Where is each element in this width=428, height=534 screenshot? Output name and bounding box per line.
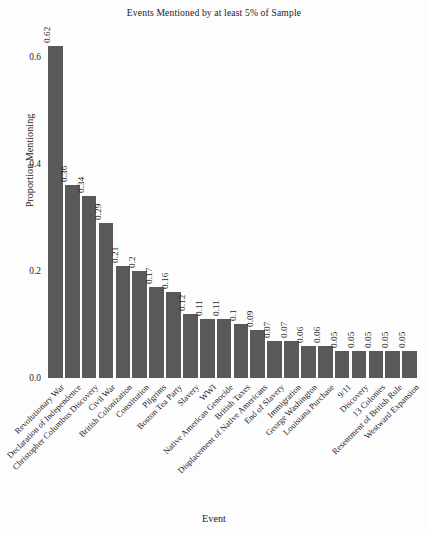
bar-value-label: 0.05 bbox=[396, 332, 406, 348]
bar-value-label: 0.21 bbox=[109, 246, 119, 262]
bar-slot: 0.05 bbox=[334, 30, 351, 378]
bar-value-label: 0.36 bbox=[59, 166, 69, 182]
y-axis-tick-label: 0.6 bbox=[29, 52, 41, 62]
bar-value-label: 0.09 bbox=[244, 311, 254, 327]
bar-slot: 0.36 bbox=[64, 30, 81, 378]
bar-value-label: 0.29 bbox=[93, 203, 103, 219]
bar-slot: 0.05 bbox=[384, 30, 401, 378]
bar[interactable] bbox=[200, 319, 215, 378]
bar-value-label: 0.11 bbox=[211, 300, 221, 316]
bar-value-label: 0.05 bbox=[362, 332, 372, 348]
bar-slot: 0.29 bbox=[98, 30, 115, 378]
bar-chart-figure: Events Mentioned by at least 5% of Sampl… bbox=[0, 0, 428, 534]
bar[interactable] bbox=[48, 46, 63, 378]
bar-value-label: 0.05 bbox=[329, 332, 339, 348]
bar-value-label: 0.07 bbox=[278, 321, 288, 337]
bar-value-label: 0.06 bbox=[312, 327, 322, 343]
bar[interactable] bbox=[284, 341, 299, 378]
bar[interactable] bbox=[116, 266, 131, 378]
bar[interactable] bbox=[65, 185, 80, 378]
bar-slot: 0.05 bbox=[351, 30, 368, 378]
bar[interactable] bbox=[301, 346, 316, 378]
bar-slot: 0.21 bbox=[114, 30, 131, 378]
bar-value-label: 0.34 bbox=[76, 177, 86, 193]
bar-value-label: 0.62 bbox=[42, 27, 52, 43]
bar-slot: 0.62 bbox=[47, 30, 64, 378]
y-axis-tick-label: 0.0 bbox=[29, 373, 41, 383]
bar-value-label: 0.05 bbox=[379, 332, 389, 348]
bar-slot: 0.05 bbox=[367, 30, 384, 378]
bar[interactable] bbox=[318, 346, 333, 378]
bar[interactable] bbox=[369, 351, 384, 378]
bar-value-label: 0.11 bbox=[194, 300, 204, 316]
bar-slot: 0.2 bbox=[131, 30, 148, 378]
bar-value-label: 0.05 bbox=[345, 332, 355, 348]
bar-value-label: 0.17 bbox=[143, 268, 153, 284]
bar-slot: 0.11 bbox=[216, 30, 233, 378]
bar[interactable] bbox=[217, 319, 232, 378]
bar-slot: 0.06 bbox=[317, 30, 334, 378]
bar-slot: 0.12 bbox=[182, 30, 199, 378]
bar-value-label: 0.1 bbox=[227, 310, 237, 322]
x-axis-title: Event bbox=[0, 513, 428, 524]
bar[interactable] bbox=[82, 196, 97, 378]
x-axis-tick-labels: Revolutionary WarDeclaration of Independ… bbox=[47, 380, 418, 520]
plot-area: 0.620.360.340.290.210.20.170.160.120.110… bbox=[47, 30, 418, 378]
bar-value-label: 0.07 bbox=[261, 321, 271, 337]
bar-slot: 0.16 bbox=[165, 30, 182, 378]
y-axis-tick-label: 0.2 bbox=[29, 266, 41, 276]
bar-value-label: 0.12 bbox=[177, 294, 187, 310]
bar-slot: 0.17 bbox=[148, 30, 165, 378]
bar-slot: 0.11 bbox=[199, 30, 216, 378]
bar[interactable] bbox=[234, 324, 249, 378]
bar[interactable] bbox=[335, 351, 350, 378]
bar[interactable] bbox=[267, 341, 282, 378]
bar-slot: 0.05 bbox=[401, 30, 418, 378]
chart-title: Events Mentioned by at least 5% of Sampl… bbox=[0, 7, 428, 18]
bar[interactable] bbox=[183, 314, 198, 378]
bar[interactable] bbox=[149, 287, 164, 378]
bar-value-label: 0.06 bbox=[295, 327, 305, 343]
bar-value-label: 0.16 bbox=[160, 273, 170, 289]
bar-value-label: 0.2 bbox=[126, 256, 136, 268]
bar[interactable] bbox=[385, 351, 400, 378]
y-axis-tick-label: 0.4 bbox=[29, 159, 41, 169]
bar[interactable] bbox=[352, 351, 367, 378]
bar[interactable] bbox=[132, 271, 147, 378]
y-axis: 0.00.20.40.6 bbox=[0, 0, 47, 408]
bar[interactable] bbox=[402, 351, 417, 378]
